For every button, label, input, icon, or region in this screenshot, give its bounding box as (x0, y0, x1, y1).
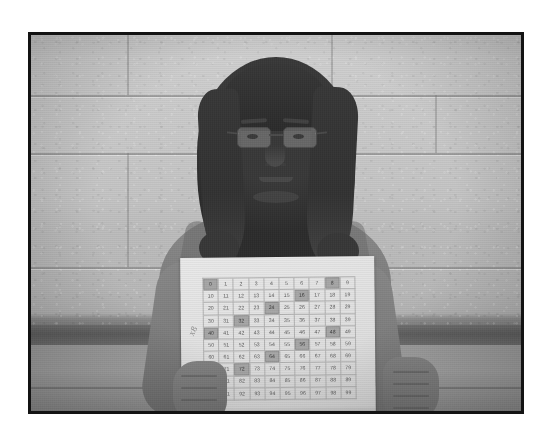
grid-cell: 47 (310, 326, 325, 338)
grid-cell-highlighted: 64 (265, 351, 280, 363)
grid-cell: 18 (325, 290, 340, 302)
grid-cell: 77 (311, 363, 326, 375)
grid-cell: 37 (310, 314, 325, 326)
grid-cell: 83 (250, 376, 265, 388)
grid-cell: 34 (265, 315, 280, 327)
grid-cell: 23 (249, 303, 264, 315)
grid-cell: 67 (311, 351, 326, 363)
grid-cell: 86 (296, 375, 311, 387)
grid-cell: 92 (235, 388, 250, 400)
photograph-frame: x8 0123456789101112131415161718192021222… (28, 32, 524, 414)
grid-cell: 29 (340, 302, 355, 314)
grid-cell: 61 (219, 352, 234, 364)
grid-cell: 25 (280, 302, 295, 314)
grid-cell-highlighted: 24 (264, 302, 279, 314)
grid-cell: 75 (280, 363, 295, 375)
grid-cell: 43 (249, 327, 264, 339)
grid-cell: 85 (280, 375, 295, 387)
grid-cell: 97 (311, 387, 326, 399)
mouth (259, 177, 293, 182)
grid-cell: 12 (234, 290, 249, 302)
grid-cell: 66 (295, 351, 310, 363)
finger-crease (181, 387, 217, 389)
grid-cell: 44 (265, 327, 280, 339)
grid-cell: 5 (279, 278, 294, 290)
grid-cell: 84 (265, 375, 280, 387)
grid-cell-highlighted: 16 (295, 290, 310, 302)
grid-cell: 45 (280, 327, 295, 339)
grid-cell: 94 (265, 388, 280, 400)
grid-cell: 39 (341, 314, 356, 326)
grid-cell: 54 (265, 339, 280, 351)
grid-cell: 50 (204, 340, 219, 352)
grid-cell: 93 (250, 388, 265, 400)
grid-cell: 95 (281, 388, 296, 400)
grid-cell: 9 (340, 277, 355, 289)
grid-cell: 78 (326, 363, 341, 375)
grid-cell: 76 (295, 363, 310, 375)
grid-cell: 82 (235, 376, 250, 388)
handwritten-annotation: x8 (186, 324, 199, 337)
grid-cell: 28 (325, 302, 340, 314)
grid-cell: 59 (341, 338, 356, 350)
grid-cell-highlighted: 56 (295, 339, 310, 351)
eye-right (293, 134, 304, 139)
grid-cell: 33 (249, 315, 264, 327)
grid-cell: 27 (310, 302, 325, 314)
eyebrow-left (241, 118, 267, 124)
grid-cell: 38 (325, 314, 340, 326)
grid-cell: 13 (249, 290, 264, 302)
chin (253, 191, 299, 203)
grid-cell: 51 (219, 339, 234, 351)
grid-cell: 99 (341, 387, 356, 399)
grid-cell: 20 (204, 303, 219, 315)
hand-left (173, 361, 227, 411)
grid-cell: 36 (295, 314, 310, 326)
grid-cell: 4 (264, 278, 279, 290)
glasses-bridge (269, 134, 283, 136)
grid-cell: 19 (340, 289, 355, 301)
grid-cell: 22 (234, 303, 249, 315)
grid-cell: 30 (204, 315, 219, 327)
grid-cell: 62 (235, 351, 250, 363)
grid-cell: 89 (341, 375, 356, 387)
grid-cell: 41 (219, 327, 234, 339)
grid-cell: 7 (310, 278, 325, 290)
grid-cell: 57 (310, 338, 325, 350)
finger-crease (393, 383, 429, 385)
eyebrow-right (283, 118, 309, 124)
grid-cell-highlighted: 48 (325, 326, 340, 338)
nostril-left (265, 163, 270, 166)
grid-cell-highlighted: 8 (325, 277, 340, 289)
grid-cell: 52 (234, 339, 249, 351)
grid-cell: 73 (250, 363, 265, 375)
grid-cell: 46 (295, 326, 310, 338)
grid-cell-highlighted: 0 (203, 279, 218, 291)
grid-cell: 17 (310, 290, 325, 302)
grid-cell: 11 (219, 291, 234, 303)
grid-cell: 31 (219, 315, 234, 327)
grid-cell-highlighted: 40 (204, 327, 219, 339)
grid-cell: 35 (280, 314, 295, 326)
grid-cell: 10 (204, 291, 219, 303)
finger-crease (393, 371, 429, 373)
finger-crease (181, 375, 217, 377)
grid-cell: 55 (280, 339, 295, 351)
hand-right (383, 357, 439, 411)
grid-cell: 6 (295, 278, 310, 290)
grid-cell-highlighted: 32 (234, 315, 249, 327)
grid-cell: 58 (326, 338, 341, 350)
grid-cell-highlighted: 72 (235, 364, 250, 376)
grid-cell: 88 (326, 375, 341, 387)
finger-crease (393, 407, 429, 409)
grid-cell: 87 (311, 375, 326, 387)
grid-cell: 63 (250, 351, 265, 363)
grid-cell: 42 (234, 327, 249, 339)
grid-cell: 69 (341, 350, 356, 362)
grid-cell: 65 (280, 351, 295, 363)
grid-cell: 98 (326, 387, 341, 399)
screenshot-canvas: x8 0123456789101112131415161718192021222… (0, 0, 553, 436)
finger-crease (393, 395, 429, 397)
grid-cell: 15 (279, 290, 294, 302)
grid-cell: 21 (219, 303, 234, 315)
